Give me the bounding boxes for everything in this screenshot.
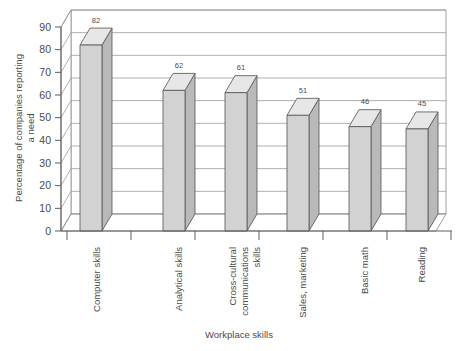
y-axis-title-line2: a need [25, 113, 36, 142]
y-tick-label: 30 [39, 157, 51, 169]
bar-cross-cultural-communications-skills [225, 76, 257, 231]
category-label-analytical-skills: Analytical skills [173, 247, 184, 311]
bar-value-label: 82 [92, 16, 100, 25]
bar-value-label: 46 [361, 97, 369, 106]
y-tick-label: 90 [39, 21, 51, 33]
category-label-computer-skills: Computer skills [91, 247, 102, 312]
y-tick-label: 40 [39, 134, 51, 146]
y-axis [55, 27, 61, 231]
y-tick-label: 60 [39, 89, 51, 101]
y-tick-label: 50 [39, 111, 51, 123]
bar-chart: 90 80 70 60 50 40 30 20 10 0 [0, 0, 462, 351]
y-tick-label: 10 [39, 202, 51, 214]
bar-basic-math [349, 110, 381, 231]
chart-canvas: 90 80 70 60 50 40 30 20 10 0 [0, 0, 462, 351]
y-axis-title: Percentage of companies reporting a need [13, 54, 36, 202]
y-tick-labels: 90 80 70 60 50 40 30 20 10 0 [39, 21, 51, 237]
y-tick-label: 70 [39, 66, 51, 78]
category-label-sales-marketing: Sales, marketing [297, 247, 308, 318]
category-label-cross-cultural-1: Cross-cultural [227, 247, 238, 306]
y-tick-label: 0 [45, 225, 51, 237]
x-axis [61, 231, 452, 240]
plot-backwall [71, 10, 446, 214]
category-label-cross-cultural-2: communications [239, 247, 250, 316]
category-label-cross-cultural-3: skills [251, 247, 262, 268]
bar-value-label: 61 [237, 63, 245, 72]
bar-computer-skills [80, 28, 112, 231]
plot-leftwall [61, 10, 71, 231]
category-label-basic-math: Basic math [359, 247, 370, 294]
x-category-labels: Computer skills Analytical skills Cross-… [91, 247, 427, 318]
bar-sales-marketing [287, 98, 319, 231]
y-tick-label: 20 [39, 179, 51, 191]
y-axis-title-line1: Percentage of companies reporting [13, 54, 24, 202]
y-tick-label: 80 [39, 43, 51, 55]
x-axis-title: Workplace skills [205, 329, 273, 340]
x-axis-title-label: Workplace skills [205, 329, 273, 340]
bar-value-label: 45 [418, 99, 426, 108]
bar-value-label: 62 [175, 61, 183, 70]
bar-reading [406, 112, 438, 231]
bar-value-label: 51 [299, 86, 307, 95]
bar-analytical-skills [163, 73, 195, 231]
category-label-reading: Reading [416, 247, 427, 282]
